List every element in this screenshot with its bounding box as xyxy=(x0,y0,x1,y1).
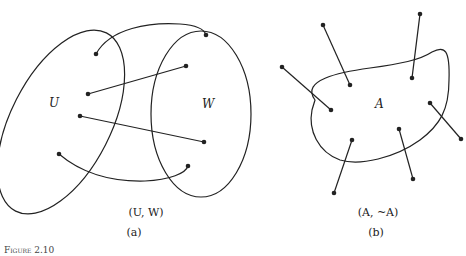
vertex xyxy=(418,12,423,17)
vertex xyxy=(78,114,83,119)
vertex xyxy=(57,152,62,157)
vertex xyxy=(397,127,402,132)
vertex xyxy=(86,92,91,97)
edge-a2 xyxy=(88,66,186,94)
figure-caption: Figure 2.10 xyxy=(4,245,55,255)
vertex xyxy=(280,65,285,70)
vertex xyxy=(202,140,207,145)
set-u-label: U xyxy=(49,96,60,110)
set-a-label: A xyxy=(374,97,384,111)
edge-a3 xyxy=(80,116,204,142)
edge-b2 xyxy=(412,14,420,78)
edge-a1 xyxy=(96,24,206,54)
vertex xyxy=(329,108,334,113)
vertex xyxy=(410,76,415,81)
vertex xyxy=(94,52,99,57)
vertex xyxy=(184,64,189,69)
vertex xyxy=(350,138,355,143)
vertex xyxy=(332,191,337,196)
panel-b-expression: (A, ~A) xyxy=(358,206,399,219)
vertex xyxy=(411,177,416,182)
set-u-ellipse xyxy=(0,10,151,234)
panel-b: A (A, ~A) (b) xyxy=(280,12,464,239)
edge-b5 xyxy=(334,140,352,193)
figure-canvas: U W (U, W) (a) A (A, ~A) (b) Figure 2.10 xyxy=(0,0,466,256)
edge-b3 xyxy=(282,67,331,110)
set-w-label: W xyxy=(202,97,216,111)
panel-a-expression: (U, W) xyxy=(128,206,163,219)
vertex xyxy=(428,101,433,106)
panel-b-tag: (b) xyxy=(368,226,384,239)
vertex xyxy=(186,164,191,169)
edge-b6 xyxy=(399,129,413,179)
vertex xyxy=(348,83,353,88)
panel-a-tag: (a) xyxy=(126,226,141,239)
set-w-ellipse xyxy=(151,31,251,197)
vertex xyxy=(204,33,209,38)
panel-a: U W (U, W) (a) xyxy=(0,10,251,239)
vertex xyxy=(459,137,464,142)
vertex xyxy=(321,23,326,28)
edge-b1 xyxy=(323,25,350,85)
